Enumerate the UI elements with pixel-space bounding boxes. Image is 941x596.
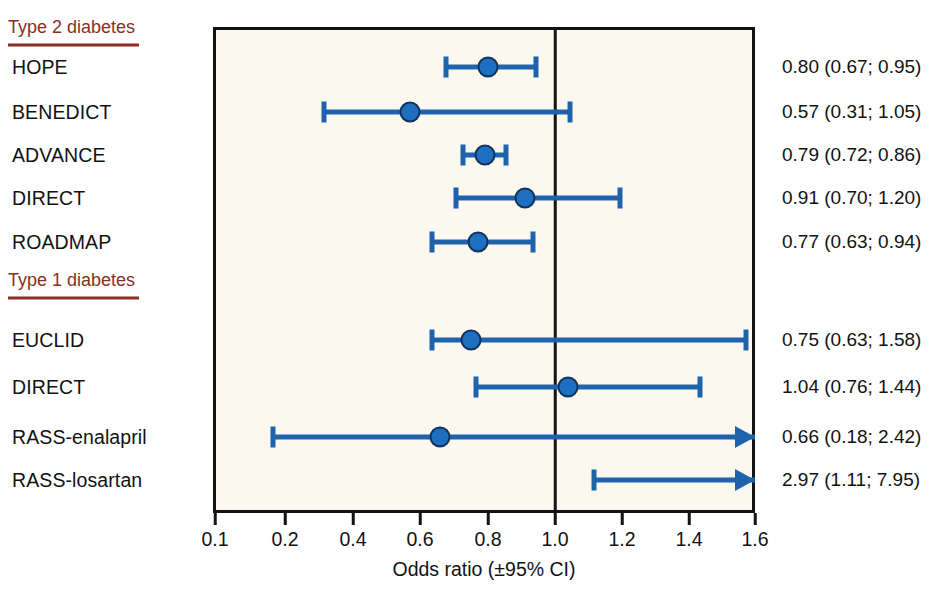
ci-upper-cap [698,377,703,398]
point-estimate-marker [430,427,451,448]
point-estimate-marker [474,145,495,166]
x-axis-tick [688,513,691,525]
ci-lower-cap [454,188,459,209]
ci-lower-cap [591,470,596,491]
x-axis-tick-label: 0.2 [271,528,298,551]
study-label: DIRECT [12,376,85,399]
point-estimate-marker [514,188,535,209]
x-axis-tick [754,513,757,525]
x-axis-tick-label: 0.8 [474,528,501,551]
estimate-value: 0.66 (0.18; 2.42) [782,426,921,448]
estimate-value: 1.04 (0.76; 1.44) [782,376,921,398]
x-axis-tick [214,513,217,525]
x-axis-tick-label: 1.6 [741,528,768,551]
estimate-value: 2.97 (1.11; 7.95) [782,469,920,491]
x-axis-tick-label: 0.1 [201,528,228,551]
plot-area [213,27,755,513]
study-label: ROADMAP [12,231,111,254]
x-axis-tick [621,513,624,525]
x-axis-tick [419,513,422,525]
point-estimate-marker [461,330,482,351]
ci-upper-cap [618,188,623,209]
confidence-interval-row [213,423,755,451]
estimate-value: 0.75 (0.63; 1.58) [782,329,921,351]
confidence-interval-row [213,141,755,169]
ci-upper-cap [567,102,572,123]
ci-lower-cap [322,102,327,123]
ci-lower-cap [474,377,479,398]
estimate-value: 0.57 (0.31; 1.05) [782,101,921,123]
study-label: RASS-enalapril [12,426,147,449]
point-estimate-marker [558,377,579,398]
x-axis-title: Odds ratio (±95% CI) [213,558,755,581]
estimate-value: 0.79 (0.72; 0.86) [782,144,921,166]
ci-upper-cap [534,57,539,78]
study-label: BENEDICT [12,101,111,124]
x-axis-tick [352,513,355,525]
study-label: DIRECT [12,187,85,210]
ci-line [474,385,702,390]
estimate-value: 0.91 (0.70; 1.20) [782,187,921,209]
ci-upper-arrowhead [735,469,755,491]
study-label-column: Type 2 diabetesHOPEBENEDICTADVANCEDIRECT… [0,0,205,596]
x-axis-tick-label: 1.0 [541,528,568,551]
x-axis-tick-label: 1.2 [608,528,635,551]
ci-line [271,435,755,440]
ci-lower-cap [443,57,448,78]
ci-upper-cap [530,232,535,253]
study-label: RASS-losartan [12,469,142,492]
section-header-rule [8,44,139,47]
section-header-1: Type 2 diabetes [8,17,135,40]
section-header-rule [8,297,139,300]
confidence-interval-row [213,184,755,212]
study-label: ADVANCE [12,144,106,167]
confidence-interval-row [213,326,755,354]
x-axis-tick-label: 1.4 [675,528,702,551]
ci-line [454,196,622,201]
section-header-2: Type 1 diabetes [8,270,135,293]
ci-line [322,110,571,115]
estimate-value: 0.80 (0.67; 0.95) [782,56,921,78]
ci-upper-arrowhead [735,426,755,448]
confidence-interval-row [213,228,755,256]
estimate-value-column: 0.80 (0.67; 0.95)0.57 (0.31; 1.05)0.79 (… [782,0,941,596]
study-label: HOPE [12,56,68,79]
confidence-interval-row [213,373,755,401]
ci-lower-cap [271,427,276,448]
confidence-interval-row [213,98,755,126]
confidence-interval-row [213,466,755,494]
ci-lower-cap [430,330,435,351]
confidence-interval-row [213,53,755,81]
x-axis-tick [554,513,557,525]
x-axis-tick [284,513,287,525]
ci-lower-cap [430,232,435,253]
point-estimate-marker [467,232,488,253]
x-axis-ticks [213,513,755,525]
x-axis-tick-label: 0.6 [406,528,433,551]
ci-line [592,478,755,483]
ci-lower-cap [460,145,465,166]
forest-plot-figure: Type 2 diabetesHOPEBENEDICTADVANCEDIRECT… [0,0,941,596]
study-label: EUCLID [12,329,84,352]
point-estimate-marker [478,57,499,78]
point-estimate-marker [399,102,420,123]
x-axis-tick-label: 0.4 [339,528,366,551]
ci-upper-cap [504,145,509,166]
ci-upper-cap [744,330,749,351]
x-axis-tick [487,513,490,525]
estimate-value: 0.77 (0.63; 0.94) [782,231,921,253]
